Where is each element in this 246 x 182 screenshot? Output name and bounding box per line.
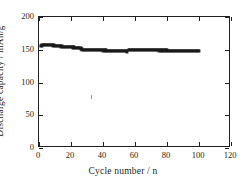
y-tick-right [225, 115, 229, 116]
x-tick-label: 100 [192, 151, 205, 160]
y-tick-label: 200 [14, 12, 34, 21]
y-tick [39, 50, 43, 51]
x-tick-top [71, 17, 72, 21]
x-axis-title: Cycle number / n [0, 166, 246, 176]
x-tick-label: 60 [130, 151, 139, 160]
x-tick-label: 120 [224, 151, 237, 160]
y-tick-label: 150 [14, 45, 34, 54]
x-tick-label: 40 [98, 151, 107, 160]
x-tick-top [231, 17, 232, 21]
x-tick-top [135, 17, 136, 21]
x-tick-top [199, 17, 200, 21]
x-tick-label: 0 [36, 151, 40, 160]
y-axis-title: Discharge capacity / mAh/g [0, 25, 5, 136]
x-tick [167, 142, 168, 146]
y-tick [39, 17, 43, 18]
x-tick [199, 142, 200, 146]
x-tick [71, 142, 72, 146]
y-tick-right [225, 50, 229, 51]
plot-area [38, 16, 230, 147]
y-tick [39, 83, 43, 84]
y-tick-label: 0 [14, 143, 34, 152]
x-tick-top [167, 17, 168, 21]
y-tick-right [225, 17, 229, 18]
x-tick [103, 142, 104, 146]
x-tick [135, 142, 136, 146]
data-point [197, 50, 200, 53]
y-tick-right [225, 148, 229, 149]
x-tick-label: 80 [162, 151, 171, 160]
chart-figure: 020406080100120 050100150200 Cycle numbe… [0, 0, 246, 182]
y-tick-label: 50 [14, 110, 34, 119]
y-tick-label: 100 [14, 77, 34, 86]
x-tick-label: 20 [66, 151, 75, 160]
x-tick [39, 142, 40, 146]
y-tick [39, 148, 43, 149]
stray-speck-artifact [91, 95, 92, 99]
x-tick-top [103, 17, 104, 21]
y-tick [39, 115, 43, 116]
y-tick-right [225, 83, 229, 84]
x-tick [231, 142, 232, 146]
